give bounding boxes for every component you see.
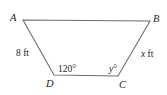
angle-d-measure: 120° bbox=[58, 64, 76, 74]
vertex-label-b: B bbox=[153, 13, 160, 24]
vertex-label-c: C bbox=[119, 79, 127, 90]
side-bc-length: x ft bbox=[140, 49, 154, 59]
angle-c-measure: y° bbox=[108, 64, 117, 74]
vertex-label-a: A bbox=[9, 12, 17, 23]
side-ad-length: 8 ft bbox=[16, 48, 29, 58]
vertex-label-d: D bbox=[45, 78, 54, 89]
trapezoid-shape bbox=[23, 20, 150, 76]
trapezoid-diagram: A B C D 8 ft x ft 120° y° bbox=[0, 0, 167, 95]
